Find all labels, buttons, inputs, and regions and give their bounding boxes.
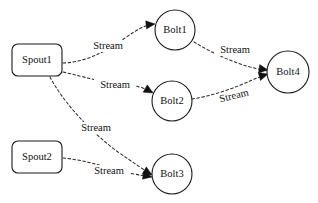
node-bolt3[interactable]: Bolt3 xyxy=(152,154,192,194)
arrow-head-icon xyxy=(146,20,156,29)
node-label: Bolt1 xyxy=(163,24,186,35)
edge-label-e6: Stream xyxy=(212,85,256,107)
edge-label-e4: Stream xyxy=(88,165,130,177)
edge-label-text: Stream xyxy=(94,165,124,176)
edge-label-e3: Stream xyxy=(75,122,117,134)
edge-label-text: Stream xyxy=(81,122,111,133)
node-bolt4[interactable]: Bolt4 xyxy=(267,51,309,93)
edge-label-text: Stream xyxy=(220,44,250,55)
node-label: Bolt2 xyxy=(160,95,183,106)
edge-label-e2: Stream xyxy=(94,79,136,91)
edge-label-text: Stream xyxy=(93,40,123,51)
node-bolt2[interactable]: Bolt2 xyxy=(152,81,192,121)
node-label: Spout1 xyxy=(22,54,52,65)
edge-label-text: Stream xyxy=(100,79,130,90)
node-bolt1[interactable]: Bolt1 xyxy=(155,10,195,50)
edge-label-e5: Stream xyxy=(214,44,256,56)
topology-diagram: StreamStreamStreamStreamStreamStreamSpou… xyxy=(0,0,318,203)
node-label: Bolt3 xyxy=(160,168,183,179)
node-label: Bolt4 xyxy=(276,66,300,77)
topology-canvas-svg: StreamStreamStreamStreamStreamStreamSpou… xyxy=(0,0,318,203)
edge-label-e1: Stream xyxy=(87,40,129,52)
node-label: Spout2 xyxy=(22,151,52,162)
node-spout2[interactable]: Spout2 xyxy=(12,141,62,173)
node-spout1[interactable]: Spout1 xyxy=(12,44,62,76)
